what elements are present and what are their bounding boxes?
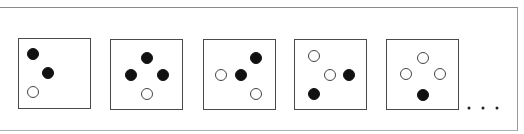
filled-circle-icon: [141, 52, 153, 64]
hollow-circle-icon: [250, 88, 262, 100]
hollow-circle-icon: [417, 52, 429, 64]
sequence-box-3: [203, 39, 276, 110]
filled-circle-icon: [42, 67, 54, 79]
filled-circle-icon: [125, 69, 137, 81]
sequence-box-2: [110, 39, 183, 110]
ellipsis-dot-icon: [468, 107, 471, 110]
ellipsis-dot-icon: [496, 107, 499, 110]
hollow-circle-icon: [400, 68, 412, 80]
sequence-box-5: [386, 39, 459, 110]
filled-circle-icon: [343, 69, 355, 81]
hollow-circle-icon: [434, 68, 446, 80]
hollow-circle-icon: [215, 69, 227, 81]
hollow-circle-icon: [324, 69, 336, 81]
filled-circle-icon: [157, 69, 169, 81]
sequence-box-1: [18, 38, 91, 109]
filled-circle-icon: [27, 48, 39, 60]
filled-circle-icon: [250, 52, 262, 64]
sequence-box-4: [294, 39, 367, 110]
filled-circle-icon: [417, 89, 429, 101]
filled-circle-icon: [308, 88, 320, 100]
hollow-circle-icon: [27, 86, 39, 98]
hollow-circle-icon: [308, 50, 320, 62]
ellipsis-dot-icon: [482, 107, 485, 110]
hollow-circle-icon: [141, 88, 153, 100]
filled-circle-icon: [235, 69, 247, 81]
